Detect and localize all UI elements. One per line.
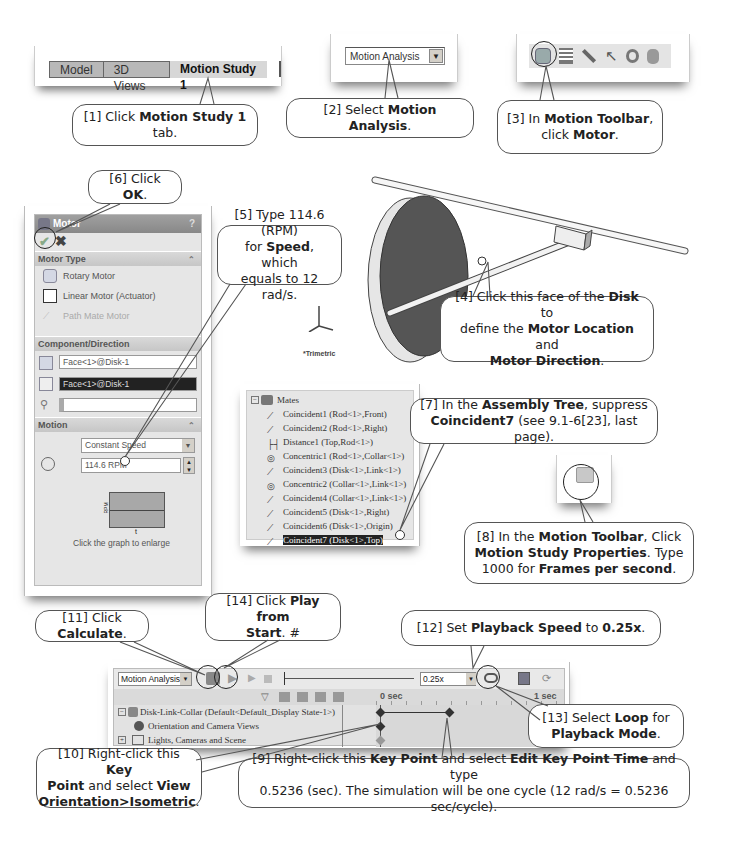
tab-model[interactable]: Model <box>49 61 104 78</box>
coincident-icon: ⟋ <box>267 465 279 475</box>
concentric-icon: ◎ <box>267 451 279 461</box>
animation-wizard-icon[interactable]: ⟳ <box>542 672 551 685</box>
motion-type-select[interactable]: Constant Speed ▼ <box>81 438 195 453</box>
callout-4: [4] Click this face of the Disk to defin… <box>440 296 654 362</box>
mates-tree: − Mates ⟋Coincident1 (Rod<1>,Front) ⟋Coi… <box>246 390 414 540</box>
rotary-motor-icon <box>43 269 57 283</box>
motor-direction-field[interactable]: Face<1>@Disk-1 <box>59 377 197 391</box>
panel-title-bar: Motor ? <box>35 215 201 233</box>
study-type-screenshot: Motion Analysis ▼ <box>330 34 458 82</box>
speed-spinner[interactable]: ▲▼ <box>183 457 195 474</box>
key-point-assembly-end[interactable] <box>445 708 455 718</box>
tree-assembly[interactable]: − Disk-Link-Collar (Default<Default_Disp… <box>114 705 342 719</box>
chevron-down-icon[interactable]: ▼ <box>429 49 443 63</box>
tab-3d-views[interactable]: 3D Views <box>104 61 170 78</box>
study-type-select[interactable]: Motion Analysis ▼ <box>345 47 445 65</box>
reverse-direction-icon[interactable] <box>39 377 53 391</box>
help-icon[interactable]: ? <box>189 215 195 233</box>
study-tabs: Model 3D Views Motion Study 1 <box>49 60 281 78</box>
filter-animated-icon[interactable]: ▽ <box>261 691 269 702</box>
callout-7: [7] In the Assembly Tree, suppress Coinc… <box>410 398 658 444</box>
slider-thumb[interactable] <box>284 672 285 685</box>
coincident-icon: ⟋ <box>267 409 279 419</box>
lights-icon <box>132 735 144 745</box>
motion-profile-graph[interactable]: RPM <box>109 492 165 528</box>
force-icon[interactable]: ↖ <box>605 48 618 64</box>
playback-speed-value: 0.25x <box>423 674 444 684</box>
option-path-mate-motor[interactable]: ⟋Path Mate Motor <box>35 306 201 326</box>
callout-1: [1] Click Motion Study 1 tab. <box>72 104 258 146</box>
callout-10: [10] Right-click this Key Point and sele… <box>36 748 202 808</box>
option-rotary-motor[interactable]: Rotary Motor <box>35 266 201 286</box>
mate-concentric1[interactable]: ◎Concentric1 (Rod<1>,Collar<1>) <box>247 449 413 463</box>
mate-coincident7[interactable]: ⟋Coincident7 (Disk<1>,Top) <box>247 533 413 547</box>
assembly-icon <box>128 707 138 717</box>
camera-icon <box>134 721 144 731</box>
coincident-icon: ⟋ <box>267 535 279 545</box>
expand-plus-icon[interactable]: + <box>118 736 126 744</box>
mate-coincident1[interactable]: ⟋Coincident1 (Rod<1>,Front) <box>247 407 413 421</box>
section-motor-type[interactable]: Motor Type⌃ <box>35 251 201 266</box>
tree-divider[interactable] <box>342 705 343 747</box>
motion-body: Constant Speed ▼ 114.6 RPM ▲▼ RPM t Clic… <box>35 432 201 582</box>
graph-hint: Click the graph to enlarge <box>73 538 170 548</box>
component-to-move-field[interactable] <box>59 398 197 412</box>
mate-distance1[interactable]: ├┤Distance1 (Top,Rod<1>) <box>247 435 413 449</box>
motor-property-manager: Motor ? ✔ ✖ Motor Type⌃ Rotary Motor Lin… <box>34 214 202 586</box>
callout-5: [5] Type 114.6 (RPM) for Speed, which eq… <box>217 225 342 285</box>
key-point-orientation[interactable] <box>376 722 386 732</box>
collapse-icon[interactable]: ⌃ <box>188 252 195 267</box>
collapse-icon[interactable]: ⌃ <box>188 418 195 433</box>
key-bar <box>380 712 450 713</box>
speed-pointer-dot <box>120 456 130 466</box>
key-point-lights[interactable] <box>376 736 386 746</box>
speed-input[interactable]: 114.6 RPM <box>81 458 181 473</box>
gravity-icon[interactable] <box>626 49 639 63</box>
filter-selected-icon[interactable] <box>297 692 308 702</box>
collapse-minus-icon[interactable]: − <box>118 708 126 716</box>
mate-concentric2[interactable]: ◎Concentric2 (Collar<1>,Link<1>) <box>247 477 413 491</box>
mate-coincident5[interactable]: ⟋Coincident5 (Disk<1>,Right) <box>247 505 413 519</box>
chevron-down-icon[interactable]: ▼ <box>466 673 476 685</box>
path-mate-icon: ⟋ <box>43 311 57 322</box>
springs-icon[interactable] <box>559 48 573 64</box>
stop-icon[interactable] <box>264 675 272 683</box>
component-icon: ⚲ <box>40 398 48 411</box>
filter-collapse-icon[interactable] <box>333 692 344 702</box>
study-type-select[interactable]: Motion Analysis ▼ <box>118 672 192 686</box>
tree-orientation-camera-views[interactable]: Orientation and Camera Views <box>114 719 342 733</box>
timeline-slider[interactable] <box>284 678 414 679</box>
damper-icon[interactable] <box>647 49 659 64</box>
option-linear-motor[interactable]: Linear Motor (Actuator) <box>35 286 201 306</box>
ok-cancel-row: ✔ ✖ <box>35 233 201 251</box>
save-animation-icon[interactable] <box>518 672 530 685</box>
coincident-icon: ⟋ <box>267 521 279 531</box>
key-point-assembly-start[interactable] <box>376 708 386 718</box>
ok-highlight-ring <box>34 227 56 249</box>
concentric-icon: ◎ <box>267 479 279 489</box>
mates-folder[interactable]: − Mates <box>247 393 413 407</box>
mate-coincident4[interactable]: ⟋Coincident4 (Collar<1>,Link<1>) <box>247 491 413 505</box>
cancel-x-icon[interactable]: ✖ <box>55 233 67 249</box>
properties-highlight-ring <box>563 464 599 500</box>
callout-9: [9] Right-click this Key Point and selec… <box>238 758 690 808</box>
motor-location-field[interactable]: Face<1>@Disk-1 <box>59 355 197 369</box>
playback-speed-select[interactable]: 0.25x ▼ <box>420 672 476 686</box>
play-icon[interactable]: ▶ <box>248 672 256 683</box>
mate-coincident2[interactable]: ⟋Coincident2 (Rod<1>,Right) <box>247 421 413 435</box>
mate-coincident3[interactable]: ⟋Coincident3 (Disk<1>,Link<1>) <box>247 463 413 477</box>
filter-driving-icon[interactable] <box>279 692 290 702</box>
section-motion[interactable]: Motion⌃ <box>35 417 201 432</box>
mate-coincident6[interactable]: ⟋Coincident6 (Disk<1>,Origin) <box>247 519 413 533</box>
section-component-direction[interactable]: Component/Direction <box>35 336 201 351</box>
collapse-minus-icon[interactable]: − <box>251 396 259 404</box>
callout-14: [14] Click Play from Start. # <box>205 593 341 641</box>
time-end-label: 1 sec <box>534 691 557 701</box>
chevron-down-icon[interactable]: ▼ <box>182 439 194 452</box>
tree-lights-cameras-scene[interactable]: + Lights, Cameras and Scene <box>114 733 342 747</box>
study-type-value: Motion Analysis <box>121 674 180 684</box>
contact-icon[interactable] <box>582 49 596 63</box>
tab-motion-study-1[interactable]: Motion Study 1 <box>170 61 267 78</box>
filter-results-icon[interactable] <box>315 692 326 702</box>
chevron-down-icon[interactable]: ▼ <box>180 673 191 685</box>
